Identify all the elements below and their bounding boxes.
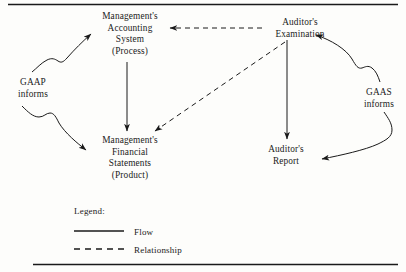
node-accounting-system-line-2: Accounting (92, 23, 168, 35)
node-financial-statements-line-2: Financial (92, 147, 168, 159)
edge-exam-to-statements-dashed (155, 42, 285, 131)
label-gaap-line-1: GAAP (6, 77, 60, 89)
diagram-figure: Management's Accounting System (Process)… (0, 0, 406, 272)
node-financial-statements: Management's Financial Statements (Produ… (92, 135, 168, 181)
node-accounting-system-line-3: System (92, 34, 168, 46)
label-gaas-line-1: GAAS (356, 87, 402, 99)
node-auditors-report-line-2: Report (256, 156, 316, 168)
node-auditors-examination-line-2: Examination (258, 29, 342, 41)
label-gaas-line-2: informs (356, 99, 402, 111)
label-gaap-informs: GAAP informs (6, 77, 60, 100)
edge-gaas-to-exam (316, 35, 380, 82)
node-auditors-examination-line-1: Auditor's (258, 17, 342, 29)
label-gaap-line-2: informs (6, 89, 60, 101)
legend-heading: Legend: (74, 206, 105, 216)
legend-item-relationship-label: Relationship (134, 245, 182, 255)
node-accounting-system: Management's Accounting System (Process) (92, 11, 168, 57)
edge-gaas-to-report (322, 112, 392, 159)
node-auditors-report: Auditor's Report (256, 144, 316, 167)
edge-gaap-to-statements (22, 106, 86, 150)
node-accounting-system-line-1: Management's (92, 11, 168, 23)
label-gaas-informs: GAAS informs (356, 87, 402, 110)
node-auditors-examination: Auditor's Examination (258, 17, 342, 40)
diagram-edges-layer (0, 0, 406, 272)
node-accounting-system-line-4: (Process) (92, 46, 168, 58)
edge-gaap-to-accounting (32, 34, 91, 72)
node-financial-statements-line-3: Statements (92, 158, 168, 170)
node-auditors-report-line-1: Auditor's (256, 144, 316, 156)
legend-item-flow-label: Flow (134, 227, 153, 237)
node-financial-statements-line-4: (Product) (92, 170, 168, 182)
node-financial-statements-line-1: Management's (92, 135, 168, 147)
